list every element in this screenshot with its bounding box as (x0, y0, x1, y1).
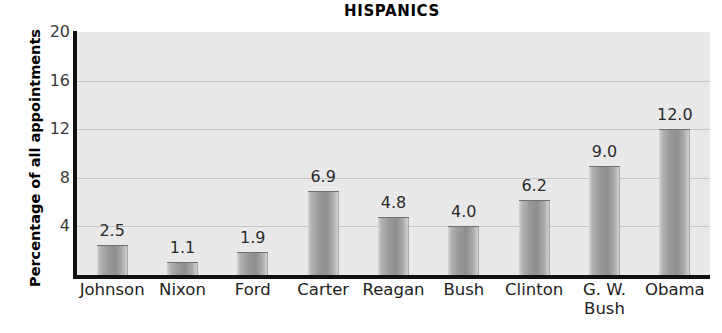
bar-value-label: 4.0 (429, 204, 499, 220)
bar-slot: 4.8 (358, 32, 428, 275)
bar-value-label: 1.1 (147, 240, 217, 256)
x-axis-tick-labels: JohnsonNixonFordCarterReaganBushClintonG… (77, 281, 710, 333)
bar-value-label: 6.9 (288, 169, 358, 185)
bar-value-label: 6.2 (499, 178, 569, 194)
bar[interactable] (378, 217, 409, 275)
y-axis-line (73, 31, 77, 277)
bar-slot: 1.9 (218, 32, 288, 275)
bar-value-label: 9.0 (569, 144, 639, 160)
x-tick-label-line: Obama (633, 281, 717, 300)
bar-value-label: 1.9 (218, 230, 288, 246)
chart-title: HISPANICS (74, 2, 710, 20)
bar-slot: 6.9 (288, 32, 358, 275)
bar[interactable] (519, 200, 550, 275)
plot-area: 2.51.11.96.94.84.06.29.012.0 (77, 32, 710, 275)
y-axis-tick-labels: 20161284 (16, 0, 70, 333)
x-axis-line (73, 275, 710, 279)
bar[interactable] (237, 252, 268, 275)
y-tick-label: 20 (24, 24, 70, 40)
bar-slot: 4.0 (429, 32, 499, 275)
y-tick-label: 12 (24, 121, 70, 137)
bar-slot: 12.0 (640, 32, 710, 275)
bar-value-label: 2.5 (77, 223, 147, 239)
bar-slot: 9.0 (569, 32, 639, 275)
y-tick-label: 16 (24, 73, 70, 89)
bar[interactable] (448, 226, 479, 275)
bar[interactable] (308, 191, 339, 275)
bar-slot: 1.1 (147, 32, 217, 275)
bar[interactable] (97, 245, 128, 275)
x-tick-label: Obama (633, 281, 717, 300)
bar-slot: 2.5 (77, 32, 147, 275)
bar[interactable] (659, 129, 690, 275)
bar-value-label: 12.0 (640, 107, 710, 123)
y-tick-label: 4 (24, 218, 70, 234)
x-tick-label-line: Bush (562, 300, 646, 319)
bar-chart: HISPANICS Percentage of all appointments… (0, 0, 722, 333)
bar-slot: 6.2 (499, 32, 569, 275)
bar-value-label: 4.8 (358, 195, 428, 211)
bar[interactable] (167, 262, 198, 275)
y-tick-label: 8 (24, 170, 70, 186)
bar[interactable] (589, 166, 620, 275)
